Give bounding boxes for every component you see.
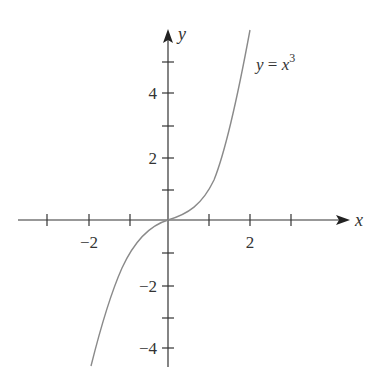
curve-equation-label: y = x3 [254, 51, 295, 74]
y-axis-label: y [176, 24, 186, 44]
y-tick-label-2: 2 [149, 149, 158, 168]
curve-label-equals: = [264, 55, 282, 74]
y-tick-label-neg4: −4 [139, 339, 158, 358]
curve-label-y: y [254, 55, 264, 74]
x-axis: x −2 2 [18, 210, 363, 252]
cubic-curve [91, 30, 250, 366]
y-tick-label-4: 4 [149, 84, 158, 103]
y-axis: y 4 2 −2 −4 [139, 24, 186, 367]
x-tick-label-neg2: −2 [80, 233, 98, 252]
cubic-function-plot: x −2 2 y 4 2 −2 −4 y = x3 [0, 0, 383, 386]
x-tick-label-2: 2 [246, 233, 255, 252]
y-tick-label-neg2: −2 [139, 277, 157, 296]
curve-label-exponent: 3 [289, 51, 295, 65]
x-axis-label: x [354, 210, 363, 230]
